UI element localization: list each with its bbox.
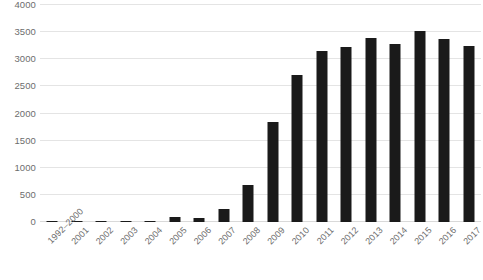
bar	[341, 47, 352, 222]
plot-area	[40, 5, 481, 222]
bar-slot	[334, 5, 359, 222]
bar-slot	[383, 5, 408, 222]
bar	[439, 39, 450, 222]
y-axis-tick-labels: 05001000150020002500300035004000	[0, 0, 36, 227]
bar-slot	[457, 5, 482, 222]
y-axis-tick-label: 2000	[0, 109, 36, 119]
bar-slot	[432, 5, 457, 222]
bar-chart: 05001000150020002500300035004000 1992–20…	[0, 0, 483, 280]
y-axis-tick-label: 500	[0, 190, 36, 200]
x-axis-tick-label: 1992–2000	[46, 225, 67, 246]
bar-slot	[187, 5, 212, 222]
bar	[267, 122, 278, 222]
bar-series	[40, 5, 481, 222]
bar-slot	[114, 5, 139, 222]
bar-slot	[138, 5, 163, 222]
y-axis-tick-label: 1500	[0, 136, 36, 146]
bar	[390, 44, 401, 222]
bar	[365, 38, 376, 222]
bar-slot	[89, 5, 114, 222]
bar-slot	[285, 5, 310, 222]
bar-slot	[261, 5, 286, 222]
bar-slot	[163, 5, 188, 222]
bar	[414, 31, 425, 223]
bar	[243, 185, 254, 222]
y-axis-tick-label: 0	[0, 217, 36, 227]
bar	[120, 221, 131, 223]
y-axis-tick-label: 4000	[0, 0, 36, 10]
bar-slot	[65, 5, 90, 222]
bar	[218, 209, 229, 222]
bar-slot	[212, 5, 237, 222]
bar	[47, 221, 58, 223]
bar	[316, 51, 327, 222]
bar	[463, 46, 474, 222]
y-axis-tick-label: 1000	[0, 163, 36, 173]
bar	[292, 75, 303, 222]
bar-slot	[408, 5, 433, 222]
bar	[169, 217, 180, 222]
y-axis-tick-label: 3500	[0, 27, 36, 37]
bar-slot	[359, 5, 384, 222]
x-axis-tick-labels: 1992–20002001200220032004200520062007200…	[40, 225, 481, 280]
bar	[96, 221, 107, 223]
bar-slot	[40, 5, 65, 222]
bar	[145, 221, 156, 223]
bar-slot	[236, 5, 261, 222]
bar	[194, 218, 205, 222]
y-axis-tick-label: 2500	[0, 81, 36, 91]
bar-slot	[310, 5, 335, 222]
y-axis-tick-label: 3000	[0, 54, 36, 64]
